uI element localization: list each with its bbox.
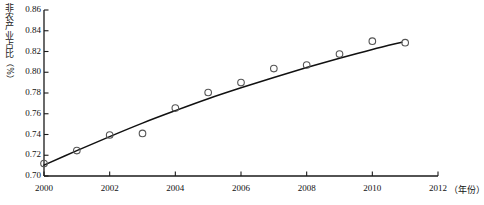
axes-layer [44, 10, 438, 176]
y-axis-label-char: （ [5, 59, 13, 67]
x-axis-tick-label: 2002 [90, 183, 130, 193]
y-axis-tick-label: 0.78 [14, 87, 41, 97]
data-point-marker [238, 79, 245, 86]
x-axis-unit-label: （年份） [449, 183, 484, 196]
y-axis-label-char: % [5, 67, 13, 75]
y-axis-tick-label: 0.84 [14, 25, 41, 35]
y-axis-tick-label: 0.76 [14, 108, 41, 118]
x-axis-tick-label: 2010 [352, 183, 392, 193]
data-point-marker [369, 38, 376, 45]
data-point-marker [402, 39, 409, 46]
data-points-layer [41, 38, 409, 167]
fit-curve-layer [44, 42, 402, 165]
x-axis-tick-label: 2000 [24, 183, 64, 193]
y-axis-tick-label: 0.80 [14, 66, 41, 76]
y-axis-tick-label: 0.70 [14, 170, 41, 180]
y-axis-tick-label: 0.74 [14, 129, 41, 139]
y-axis-tick-label: 0.86 [14, 4, 41, 14]
data-point-marker [336, 51, 343, 58]
fit-curve-path [44, 42, 402, 165]
y-axis-label-char: ） [5, 75, 13, 83]
y-axis-label-char: 比 [5, 50, 14, 59]
data-point-marker [139, 130, 146, 137]
y-axis-tick-label: 0.72 [14, 149, 41, 159]
x-axis-tick-label: 2008 [287, 183, 327, 193]
x-axis-tick-label: 2006 [221, 183, 261, 193]
data-point-marker [205, 89, 212, 96]
y-axis-tick-label: 0.82 [14, 46, 41, 56]
data-point-marker [271, 65, 278, 72]
x-axis-tick-label: 2004 [155, 183, 195, 193]
